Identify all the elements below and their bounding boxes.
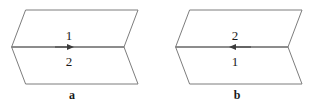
panel-b-upper-parallelogram [176,10,302,47]
panel-a-lower-parallelogram [12,47,138,84]
panel-a-lower-region-label: 2 [66,54,73,69]
diagram-canvas: 1 2 a 2 1 b [0,0,309,106]
panel-a-upper-region-label: 1 [66,28,73,43]
panel-a: 1 2 a [12,10,138,102]
panel-b-upper-region-label: 2 [232,28,239,43]
panel-b-lower-parallelogram [176,47,302,84]
panel-b: 2 1 b [176,10,302,102]
panel-a-caption: a [69,88,75,102]
figure-root: 1 2 a 2 1 b [0,0,309,106]
panel-b-arrow-head-left-icon [229,44,236,50]
panel-b-lower-region-label: 1 [232,54,239,69]
panel-a-arrow-head-right-icon [67,44,74,50]
panel-b-caption: b [234,88,241,102]
panel-a-upper-parallelogram [12,10,138,47]
